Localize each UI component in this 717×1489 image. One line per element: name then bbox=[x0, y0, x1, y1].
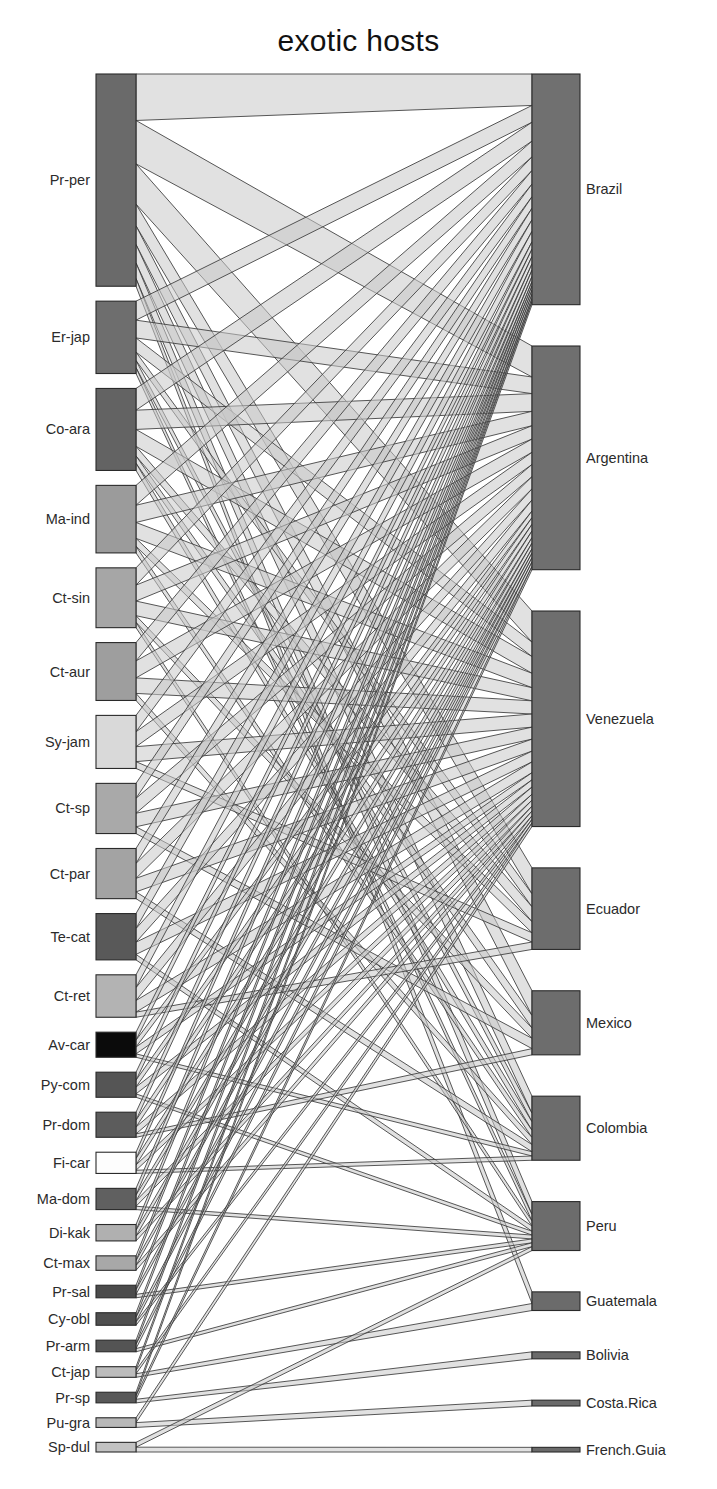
higher-node-bar[interactable] bbox=[532, 868, 580, 950]
lower-node-bar[interactable] bbox=[96, 783, 136, 833]
lower-node-label: Co-ara bbox=[46, 422, 90, 437]
lower-node-label: Ct-aur bbox=[50, 664, 90, 679]
ribbon bbox=[136, 1243, 532, 1352]
lower-node-label: Sp-dul bbox=[48, 1440, 90, 1455]
lower-node-bar[interactable] bbox=[96, 1072, 136, 1097]
higher-node-label: Guatemala bbox=[586, 1294, 657, 1309]
higher-node-bar[interactable] bbox=[532, 1352, 580, 1359]
higher-node-bar[interactable] bbox=[532, 1292, 580, 1311]
lower-node-label: Av-car bbox=[48, 1037, 90, 1052]
lower-level-bars bbox=[96, 74, 136, 1452]
lower-node-bar[interactable] bbox=[96, 568, 136, 628]
higher-node-label: French.Guia bbox=[586, 1442, 666, 1457]
lower-node-bar[interactable] bbox=[96, 301, 136, 373]
lower-node-bar[interactable] bbox=[96, 848, 136, 898]
higher-node-label: Peru bbox=[586, 1219, 617, 1234]
lower-node-label: Pr-arm bbox=[46, 1339, 90, 1354]
ribbon bbox=[136, 74, 532, 120]
lower-node-bar[interactable] bbox=[96, 485, 136, 553]
bipartite-web-svg bbox=[0, 0, 717, 1489]
lower-node-label: Fi-car bbox=[53, 1156, 90, 1171]
higher-node-label: Argentina bbox=[586, 451, 648, 466]
higher-node-label: Ecuador bbox=[586, 901, 640, 916]
lower-node-label: Er-jap bbox=[51, 330, 90, 345]
higher-node-label: Mexico bbox=[586, 1016, 632, 1031]
lower-node-label: Ct-jap bbox=[51, 1365, 90, 1380]
lower-node-bar[interactable] bbox=[96, 715, 136, 768]
higher-node-bar[interactable] bbox=[532, 1202, 580, 1251]
higher-node-label: Costa.Rica bbox=[586, 1396, 657, 1411]
higher-node-label: Bolivia bbox=[586, 1348, 629, 1363]
higher-node-bar[interactable] bbox=[532, 611, 580, 827]
lower-node-label: Ct-ret bbox=[54, 989, 90, 1004]
lower-node-label: Pr-sp bbox=[55, 1390, 90, 1405]
lower-node-label: Ma-dom bbox=[37, 1192, 90, 1207]
lower-node-bar[interactable] bbox=[96, 1285, 136, 1298]
lower-node-bar[interactable] bbox=[96, 1340, 136, 1352]
ribbon bbox=[136, 1352, 532, 1403]
lower-node-bar[interactable] bbox=[96, 1313, 136, 1326]
lower-node-label: Pr-dom bbox=[42, 1117, 90, 1132]
ribbon-layer bbox=[136, 74, 532, 1452]
lower-node-bar[interactable] bbox=[96, 1442, 136, 1452]
lower-node-label: Ma-ind bbox=[46, 512, 90, 527]
higher-node-label: Colombia bbox=[586, 1121, 647, 1136]
higher-level-bars bbox=[532, 74, 580, 1452]
higher-node-bar[interactable] bbox=[532, 1447, 580, 1452]
higher-node-bar[interactable] bbox=[532, 991, 580, 1055]
lower-node-bar[interactable] bbox=[96, 1367, 136, 1378]
higher-node-bar[interactable] bbox=[532, 1400, 580, 1406]
higher-node-bar[interactable] bbox=[532, 346, 580, 570]
lower-node-bar[interactable] bbox=[96, 1418, 136, 1428]
lower-node-label: Ct-sp bbox=[55, 801, 90, 816]
lower-node-label: Ct-max bbox=[43, 1256, 90, 1271]
lower-node-label: Py-com bbox=[41, 1077, 90, 1092]
lower-node-bar[interactable] bbox=[96, 1112, 136, 1137]
lower-node-label: Ct-sin bbox=[52, 590, 90, 605]
higher-node-label: Venezuela bbox=[586, 712, 654, 727]
ribbon bbox=[136, 1304, 532, 1378]
lower-node-bar[interactable] bbox=[96, 975, 136, 1017]
higher-node-bar[interactable] bbox=[532, 74, 580, 305]
lower-node-bar[interactable] bbox=[96, 388, 136, 470]
lower-node-label: Sy-jam bbox=[45, 735, 90, 750]
lower-node-label: Di-kak bbox=[49, 1225, 90, 1240]
lower-node-bar[interactable] bbox=[96, 914, 136, 960]
lower-node-bar[interactable] bbox=[96, 1225, 136, 1241]
lower-node-bar[interactable] bbox=[96, 643, 136, 701]
lower-node-bar[interactable] bbox=[96, 1256, 136, 1270]
plot-canvas: exotic hosts Pr-perEr-japCo-araMa-indCt-… bbox=[0, 0, 717, 1489]
higher-node-bar[interactable] bbox=[532, 1096, 580, 1160]
lower-node-bar[interactable] bbox=[96, 1188, 136, 1209]
lower-node-bar[interactable] bbox=[96, 74, 136, 286]
lower-node-bar[interactable] bbox=[96, 1032, 136, 1057]
lower-node-label: Pu-gra bbox=[46, 1415, 90, 1430]
higher-node-label: Brazil bbox=[586, 182, 622, 197]
lower-node-bar[interactable] bbox=[96, 1152, 136, 1173]
lower-node-label: Pr-sal bbox=[52, 1284, 90, 1299]
ribbon bbox=[136, 1447, 532, 1452]
lower-node-label: Cy-obl bbox=[48, 1312, 90, 1327]
lower-node-bar[interactable] bbox=[96, 1392, 136, 1403]
lower-node-label: Pr-per bbox=[50, 173, 90, 188]
lower-node-label: Ct-par bbox=[50, 866, 90, 881]
lower-node-label: Te-cat bbox=[51, 929, 91, 944]
